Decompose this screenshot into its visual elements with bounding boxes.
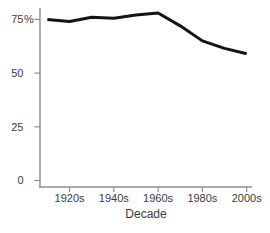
data-series-line bbox=[47, 13, 246, 54]
x-tick-label: 1960s bbox=[143, 192, 173, 204]
x-axis: 1920s1940s1960s1980s2000s bbox=[39, 187, 262, 204]
y-tick-label: 0 bbox=[17, 174, 23, 186]
decade-line-chart: 75%50250 1920s1940s1960s1980s2000s Decad… bbox=[0, 0, 270, 233]
y-axis: 75%50250 bbox=[11, 8, 40, 188]
y-tick-label: 25 bbox=[11, 121, 23, 133]
y-tick-suffix: % bbox=[24, 13, 34, 25]
x-tick-label: 1940s bbox=[99, 192, 129, 204]
x-axis-title: Decade bbox=[125, 207, 167, 221]
chart-container: 75%50250 1920s1940s1960s1980s2000s Decad… bbox=[0, 0, 270, 233]
x-tick-label: 2000s bbox=[232, 192, 262, 204]
line-series bbox=[47, 13, 246, 54]
x-tick-label: 1920s bbox=[55, 192, 85, 204]
x-tick-label: 1980s bbox=[187, 192, 217, 204]
y-tick-label: 75 bbox=[11, 13, 23, 25]
y-tick-label: 50 bbox=[11, 67, 23, 79]
